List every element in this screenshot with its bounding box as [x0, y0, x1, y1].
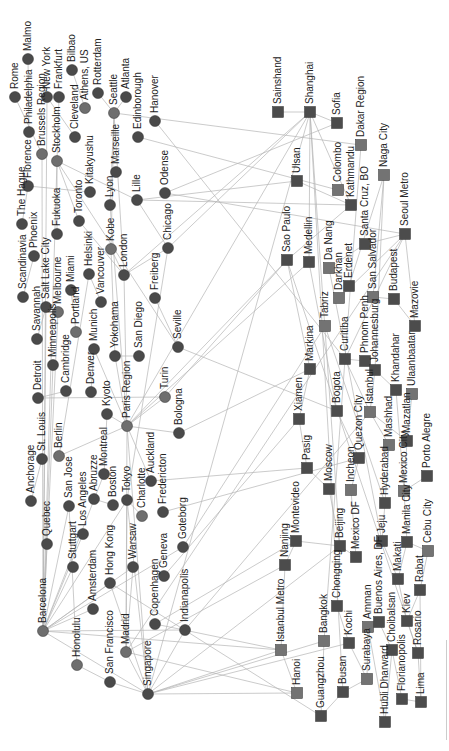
node-chicago[interactable]: Chicago	[162, 203, 174, 254]
node-curitiba[interactable]: Curitiba	[339, 316, 351, 364]
node-bangkok[interactable]: Bangkok	[318, 593, 330, 646]
node-san-jose[interactable]: San Jose	[63, 456, 75, 512]
node-st-louis[interactable]: St. Louis	[36, 412, 48, 464]
node-hong-kong[interactable]: Hong Kong	[104, 525, 116, 589]
node-kochi[interactable]: Kochi	[343, 610, 355, 649]
node-pasig[interactable]: Pasig	[301, 435, 313, 474]
node-barcelona[interactable]: Barcelona	[37, 578, 49, 637]
node-sainshand[interactable]: Sainshand	[272, 57, 284, 118]
node-bogota[interactable]: Bogota	[331, 371, 343, 417]
node-los-angeles[interactable]: Los Angeles	[77, 472, 89, 540]
node-goteborg[interactable]: Goteborg	[177, 497, 189, 552]
node-rotterdam[interactable]: Rotterdam	[92, 38, 104, 98]
node-istanbul[interactable]: Istanbul	[364, 369, 376, 418]
node-ulaanbaatar[interactable]: Ulaanbaatar	[406, 331, 418, 400]
node-lima[interactable]: Lima	[415, 672, 427, 708]
node-budapest[interactable]: Budapest	[388, 249, 400, 305]
node-khandahar[interactable]: Khandahar	[390, 332, 402, 395]
node-istanbul-metro[interactable]: Istanbul Metro	[275, 578, 287, 655]
node-ulsan[interactable]: Ulsan	[291, 147, 303, 186]
node-san-diego[interactable]: San Diego	[133, 301, 145, 362]
node-amman[interactable]: Amman	[362, 585, 374, 633]
node-honolulu[interactable]: Honolulu	[71, 618, 83, 671]
node-detroit[interactable]: Detroit	[32, 360, 44, 403]
node-sofia[interactable]: Sofia	[331, 92, 343, 129]
node-mexico-df[interactable]: Mexico DF	[350, 501, 362, 562]
node-london[interactable]: London	[118, 234, 130, 281]
node-philadelphia[interactable]: Philadelphia	[23, 69, 35, 137]
node-vancouver[interactable]: Vancouver	[95, 246, 107, 307]
node-hyderabad[interactable]: Hyderabad	[379, 446, 391, 508]
node-edinborough[interactable]: Edinborough	[132, 72, 144, 142]
node-hanoi[interactable]: Hanoi	[291, 659, 303, 699]
node-boston[interactable]: Boston	[107, 466, 119, 511]
node-copenhagen[interactable]: Copenhagen	[149, 559, 161, 630]
node-stuttgart[interactable]: Stuttgart	[67, 521, 79, 573]
node-warsaw[interactable]: Warsaw	[127, 522, 139, 572]
node-berlin[interactable]: Berlin	[53, 422, 65, 461]
node-hubli-dharward[interactable]: Hubli Dharward	[379, 645, 391, 727]
node-san-salvador[interactable]: San Salvador	[367, 228, 379, 302]
node-naga-city[interactable]: Naga City	[378, 123, 390, 180]
node-portland[interactable]: Portland	[70, 287, 82, 338]
node-kyoto[interactable]: Kyoto	[101, 380, 113, 420]
node-munich[interactable]: Munich	[88, 309, 100, 355]
node-hanover[interactable]: Hanover	[149, 75, 161, 127]
node-seville[interactable]: Seville	[172, 309, 184, 352]
node-bilbao[interactable]: Bilbao	[66, 34, 78, 76]
node-tabriz[interactable]: Tabriz	[319, 291, 331, 331]
node-helsinki[interactable]: Helsinki	[83, 231, 95, 280]
node-yokohama[interactable]: Yokohama	[109, 301, 121, 362]
node-the-hague[interactable]: The Hague	[16, 166, 28, 229]
node-incheon[interactable]: Incheon	[345, 446, 357, 495]
node-atlanta[interactable]: Atlanta	[120, 57, 132, 102]
node-fredericton[interactable]: Fredericton	[157, 453, 169, 517]
node-denver[interactable]: Denver	[85, 351, 97, 397]
node-fukuoka[interactable]: Fukuoka	[51, 187, 63, 239]
node-malmo[interactable]: Malmo	[22, 21, 34, 65]
node-athens-us[interactable]: Athens, US	[79, 49, 91, 113]
node-minneapolis[interactable]: Minneapolis	[47, 304, 59, 371]
node-tokyo[interactable]: Tokyo	[121, 465, 133, 505]
node-bologna[interactable]: Bologna	[173, 388, 185, 439]
node-kobe[interactable]: Kobe	[105, 217, 117, 254]
node-markina[interactable]: Markina	[304, 325, 316, 375]
node-rosario[interactable]: Rosario	[412, 610, 424, 658]
node-shanghai[interactable]: Shanghai	[304, 62, 316, 118]
node-dakar-region[interactable]: Dakar Region	[355, 76, 367, 151]
node-xiamen[interactable]: Xiamen	[293, 377, 305, 424]
node-surabaya[interactable]: Surabaya	[361, 628, 373, 685]
node-makati[interactable]: Makati	[392, 542, 404, 585]
node-buenos-aires-df[interactable]: Buenos Aires, DF	[373, 536, 385, 627]
node-quebec[interactable]: Quebec	[41, 501, 53, 550]
node-anchorage[interactable]: Anchorage	[25, 444, 37, 506]
node-freiberg[interactable]: Freiberg	[149, 253, 161, 304]
node-madrid[interactable]: Madrid	[120, 613, 132, 657]
node-singapore[interactable]: Singapore	[142, 640, 154, 700]
node-busan[interactable]: Busan	[337, 656, 349, 698]
node-stockholm[interactable]: Stockholm	[51, 106, 63, 166]
node-darkhan[interactable]: Darkhan	[333, 252, 345, 303]
node-san-francisco[interactable]: San Francisco	[104, 610, 116, 688]
node-florianopolis[interactable]: Florianopolis	[396, 634, 408, 704]
node-phoenix[interactable]: Phoenix	[28, 212, 40, 262]
node-odense[interactable]: Odense	[159, 150, 171, 199]
node-abruzze[interactable]: Abruzze	[88, 454, 100, 505]
node-erdenet[interactable]: Erdenet	[343, 243, 355, 292]
node-seoul-metro[interactable]: Seoul Metro	[399, 172, 411, 240]
node-manila-city[interactable]: Manila City	[401, 485, 413, 548]
node-savannah[interactable]: Savannah	[31, 286, 43, 345]
node-montevideo[interactable]: Montevideo	[290, 481, 302, 547]
node-kiev[interactable]: Kiev	[401, 594, 413, 627]
node-mashhad[interactable]: Mashhad	[383, 396, 395, 451]
node-lyon[interactable]: Lyon	[104, 176, 116, 211]
node-kitakyushu[interactable]: Kitakyushu	[84, 135, 96, 197]
node-chongqing[interactable]: Chongqing	[331, 550, 343, 612]
node-kathmandu[interactable]: Kathmandu	[345, 146, 357, 211]
node-cebu-city[interactable]: Cebu City	[422, 499, 434, 556]
node-cambridge[interactable]: Cambridge	[60, 334, 72, 397]
node-beijing[interactable]: Beijing	[334, 508, 346, 552]
node-rome[interactable]: Rome	[9, 62, 21, 103]
node-medellin[interactable]: Medellin	[303, 217, 315, 268]
node-charlotte[interactable]: Charlotte	[136, 467, 148, 522]
